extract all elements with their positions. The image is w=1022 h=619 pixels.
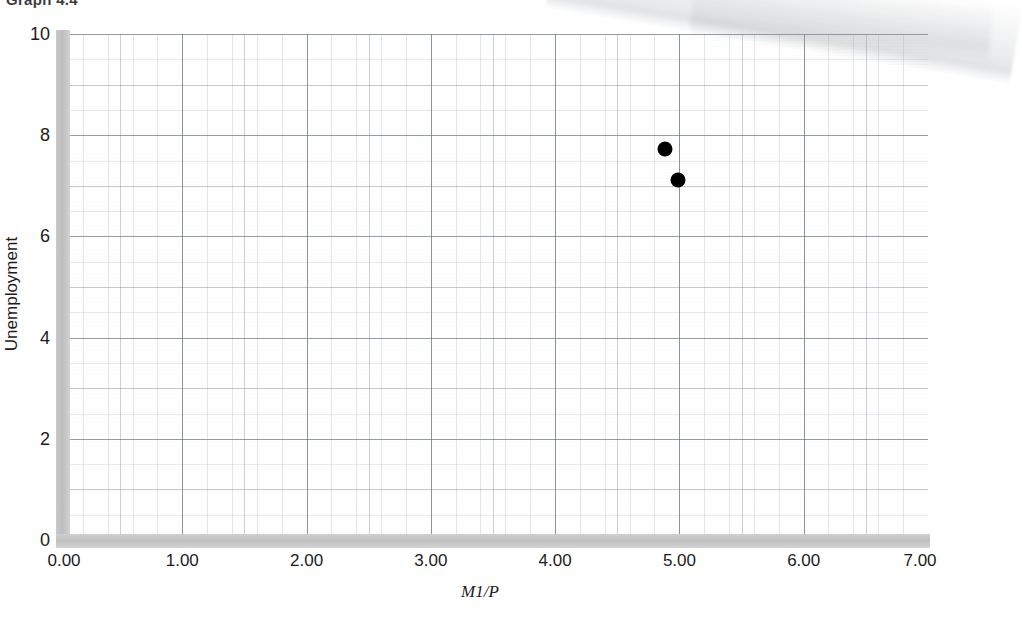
y-tick-label: 8 — [4, 126, 50, 144]
x-tick-label: 3.00 — [414, 552, 447, 569]
y-tick-label: 10 — [4, 25, 50, 43]
y-tick-label: 2 — [4, 430, 50, 448]
x-tick-label: 5.00 — [663, 552, 696, 569]
y-axis-title: Unemployment — [2, 204, 22, 384]
x-tick-label: 1.00 — [166, 552, 199, 569]
y-axis-bar — [56, 30, 70, 548]
y-tick-label: 0 — [4, 531, 50, 549]
data-point — [671, 173, 686, 188]
x-axis-bar — [56, 534, 930, 548]
x-tick-label: 4.00 — [539, 552, 572, 569]
x-tick-label: 0.00 — [47, 552, 80, 569]
plot-area — [58, 34, 928, 540]
x-tick-label: 2.00 — [290, 552, 323, 569]
x-axis-title: M1/P — [0, 582, 960, 602]
x-tick-label: 7.00 — [903, 552, 936, 569]
x-tick-label: 6.00 — [787, 552, 820, 569]
data-point — [657, 141, 672, 156]
grid-major-lines — [58, 34, 928, 540]
